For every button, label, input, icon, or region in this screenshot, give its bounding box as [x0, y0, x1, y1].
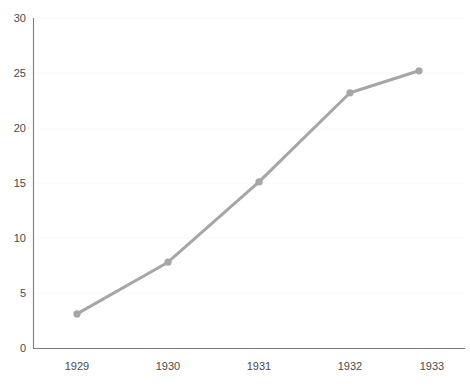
- y-tick-label: 10: [14, 232, 26, 244]
- data-point-marker: [73, 310, 80, 317]
- x-tick-label: 1931: [247, 360, 271, 372]
- x-tick-label: 1929: [65, 360, 89, 372]
- data-point-marker: [346, 89, 353, 96]
- y-tick-label: 20: [14, 122, 26, 134]
- x-tick-label: 1932: [338, 360, 362, 372]
- y-tick-label: 5: [20, 287, 26, 299]
- plot-area-background: [33, 14, 465, 348]
- y-tick-label: 30: [14, 12, 26, 24]
- y-axis-tick-labels: 30 25 20 15 10 5 0: [14, 12, 26, 354]
- x-tick-label: 1930: [156, 360, 180, 372]
- data-point-marker: [164, 259, 171, 266]
- y-tick-label: 15: [14, 177, 26, 189]
- x-axis-tick-labels: 1929 1930 1931 1932 1933: [65, 360, 444, 372]
- line-chart: 30 25 20 15 10 5 0 1929 1930 1931 1932 1…: [0, 0, 470, 387]
- data-point-marker: [415, 67, 422, 74]
- y-tick-label: 25: [14, 67, 26, 79]
- x-tick-label: 1933: [420, 360, 444, 372]
- data-point-marker: [255, 178, 262, 185]
- y-tick-label: 0: [20, 342, 26, 354]
- chart-canvas: 30 25 20 15 10 5 0 1929 1930 1931 1932 1…: [0, 0, 470, 387]
